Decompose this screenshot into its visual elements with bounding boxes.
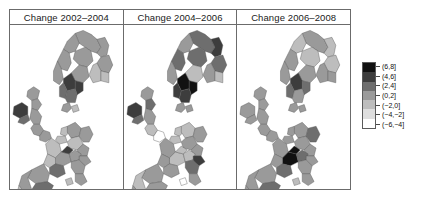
legend-label: (−2,0] <box>382 102 400 109</box>
legend-tick-icon <box>376 114 380 115</box>
panel-title: Change 2002–2004 <box>10 10 123 25</box>
panel-title: Change 2004–2006 <box>124 10 237 25</box>
figure-root: Change 2002–2004 <box>0 0 421 197</box>
legend-swatch <box>363 109 375 118</box>
map-canvas[interactable] <box>237 25 350 189</box>
map-canvas[interactable] <box>124 25 237 189</box>
map-canvas[interactable] <box>10 25 123 189</box>
legend-label: (0,2] <box>382 92 396 99</box>
panel-change-2002-2004[interactable]: Change 2002–2004 <box>9 9 123 190</box>
panel-change-2006-2008[interactable]: Change 2006–2008 <box>236 9 351 190</box>
legend-entry: (−6,−4] <box>376 119 414 129</box>
legend-label: (2,4] <box>382 82 396 89</box>
legend-swatch <box>363 82 375 91</box>
legend-entry: (4,6] <box>376 72 414 82</box>
legend-label: (4,6] <box>382 73 396 80</box>
legend-entry: (−4,−2] <box>376 110 414 120</box>
legend-label: (6,8] <box>382 63 396 70</box>
panel-change-2004-2006[interactable]: Change 2004–2006 <box>123 9 237 190</box>
legend-label: (−4,−2] <box>382 111 404 118</box>
legend-label-list: (6,8] (4,6] (2,4] (0,2] (−2,0] (−4,−2] <box>376 62 414 129</box>
legend-label: (−6,−4] <box>382 121 404 128</box>
legend-tick-icon <box>376 76 380 77</box>
legend-entry: (−2,0] <box>376 100 414 110</box>
legend-swatch <box>363 119 375 128</box>
panel-strip: Change 2002–2004 <box>9 9 351 190</box>
legend-tick-icon <box>376 66 380 67</box>
legend-tick-icon <box>376 95 380 96</box>
legend-entry: (0,2] <box>376 91 414 101</box>
legend-entry: (6,8] <box>376 62 414 72</box>
legend-color-bar <box>362 62 376 129</box>
legend-swatch <box>363 72 375 81</box>
europe-choropleth-map <box>124 25 237 189</box>
europe-choropleth-map <box>10 25 123 189</box>
legend: (6,8] (4,6] (2,4] (0,2] (−2,0] (−4,−2] <box>362 62 414 134</box>
legend-tick-icon <box>376 85 380 86</box>
legend-swatch <box>363 91 375 100</box>
legend-swatch <box>363 63 375 72</box>
legend-swatch <box>363 100 375 109</box>
europe-choropleth-map <box>237 25 350 189</box>
legend-entry: (2,4] <box>376 81 414 91</box>
legend-tick-icon <box>376 105 380 106</box>
legend-tick-icon <box>376 124 380 125</box>
panel-title: Change 2006–2008 <box>237 10 350 25</box>
